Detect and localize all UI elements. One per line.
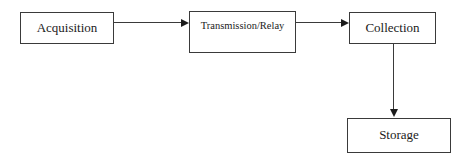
flowchart-canvas: Acquisition Transmission/Relay Collectio… — [0, 0, 470, 163]
flow-node-collection-label: Collection — [365, 21, 419, 35]
edge-line — [296, 22, 342, 23]
flow-node-storage-label: Storage — [379, 128, 419, 142]
edge-line — [393, 44, 394, 110]
flow-node-collection[interactable]: Collection — [349, 12, 436, 44]
arrow-down-icon — [390, 109, 398, 117]
arrow-right-icon — [341, 19, 349, 27]
flow-node-storage[interactable]: Storage — [347, 118, 451, 153]
flow-node-transmission-relay[interactable]: Transmission/Relay — [189, 11, 296, 53]
flow-node-acquisition[interactable]: Acquisition — [20, 12, 114, 44]
flow-node-acquisition-label: Acquisition — [37, 21, 98, 35]
flow-node-transmission-relay-label: Transmission/Relay — [201, 20, 285, 32]
arrow-right-icon — [181, 19, 189, 27]
edge-line — [114, 22, 182, 23]
